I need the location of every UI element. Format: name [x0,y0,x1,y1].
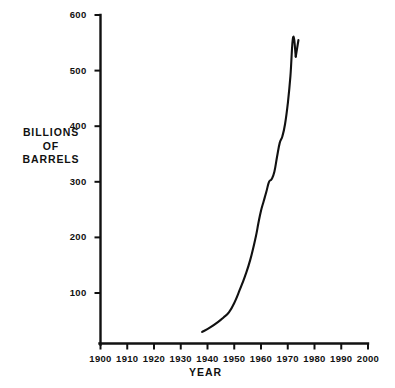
chart-figure: BILLIONS OF BARRELS YEAR 100200300400500… [0,0,395,388]
y-axis-title: BILLIONS OF BARRELS [8,126,94,167]
chart-plot-area [0,0,395,388]
x-axis-tick-label: 2000 [351,353,385,364]
y-axis-tick-label: 500 [53,65,87,76]
y-axis-tick-label: 100 [53,287,87,298]
x-axis-title: YEAR [0,366,395,378]
axis-lines [100,15,369,345]
page-caption-fragment [95,379,310,388]
y-axis-tick-label: 600 [53,9,87,20]
data-series-tail [296,40,299,57]
data-series-line [202,37,296,332]
y-axis-title-line-3: BARRELS [8,153,94,167]
y-axis-tick-label: 200 [53,231,87,242]
y-axis-tick-label: 400 [53,120,87,131]
y-axis-tick-label: 300 [53,176,87,187]
y-axis-title-line-2: OF [8,140,94,154]
